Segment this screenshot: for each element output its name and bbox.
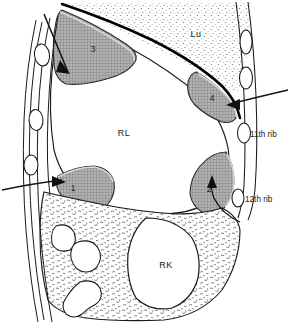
label-right-liver: RL <box>118 128 130 138</box>
left-rib-2 <box>28 109 43 131</box>
label-lung: Lu <box>191 29 202 39</box>
vessel-middle-left <box>71 241 101 272</box>
right-rib-12th <box>232 189 244 207</box>
right-rib-upper <box>240 30 252 54</box>
anatomy-diagram: RL Lu RK 11th rib 12th rib 3 4 1 2 <box>0 0 290 328</box>
anatomy-figure: RL Lu RK 11th rib 12th rib 3 4 1 2 <box>0 0 290 328</box>
label-region-4: 4 <box>210 93 215 103</box>
left-rib-3 <box>24 155 39 175</box>
label-region-1: 1 <box>71 183 76 193</box>
label-11th-rib: 11th rib <box>250 130 277 139</box>
label-right-kidney: RK <box>159 260 172 270</box>
vessel-upper-left <box>52 225 76 251</box>
label-12th-rib: 12th rib <box>245 195 273 204</box>
right-rib-middle <box>240 67 253 89</box>
left-rib-1 <box>33 43 51 67</box>
label-region-2: 2 <box>207 184 212 194</box>
right-rib-11th <box>238 123 251 143</box>
label-region-3: 3 <box>91 44 96 54</box>
